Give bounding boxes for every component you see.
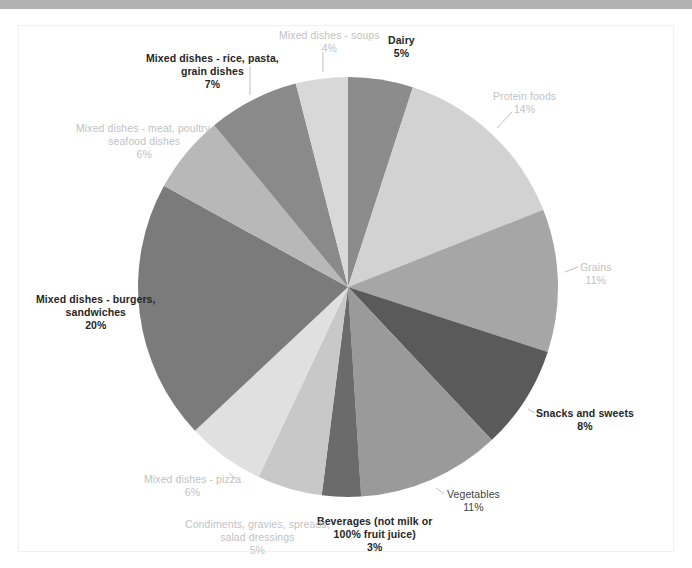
pie-slice-label-text: Dairy [388,34,415,47]
pie-slice-label-text: Mixed dishes - meat, poultry, [76,122,212,135]
pie-slice-label: Beverages (not milk or100% fruit juice)3… [317,515,432,554]
pie-slice-label-text: Mixed dishes - soups [279,29,380,42]
pie-slice-label: Protein foods14% [493,90,556,116]
pie-slice-label: Grains11% [580,261,612,287]
pie-slice-label-text: Beverages (not milk or [317,515,432,528]
pie-slice-percent: 11% [447,501,500,514]
pie-slice-label: Mixed dishes - meat, poultry,seafood dis… [76,122,212,161]
pie-slice-label-text: grain dishes [146,65,279,78]
pie-slice-percent: 7% [146,78,279,91]
pie-slice-label-text: Mixed dishes - burgers, [36,293,156,306]
pie-slice-label: Mixed dishes - soups4% [279,29,380,55]
document-page [0,9,692,568]
pie-slice-percent: 5% [388,47,415,60]
pie-slice-label-text: seafood dishes [76,135,212,148]
pie-slice-label: Vegetables11% [447,488,500,514]
pie-slice-label-text: salad dressings [185,531,330,544]
pie-slice-label: Mixed dishes - pizza6% [144,473,241,499]
pie-slice-label: Snacks and sweets8% [536,407,634,433]
pie-slice-percent: 4% [279,42,380,55]
pie-slice-percent: 14% [493,103,556,116]
pie-slice-label-text: Protein foods [493,90,556,103]
pie-slice-label: Mixed dishes - burgers,sandwiches20% [36,293,156,332]
pie-slice-label-text: Vegetables [447,488,500,501]
pie-slice-label: Dairy5% [388,34,415,60]
pie-slice-percent: 8% [536,420,634,433]
window-top-bar [0,0,692,9]
pie-slice-percent: 6% [76,148,212,161]
chart-frame [18,25,674,552]
pie-slice-percent: 5% [185,544,330,557]
pie-slice-label-text: 100% fruit juice) [317,528,432,541]
pie-slice-percent: 11% [580,274,612,287]
pie-slice-label-text: Grains [580,261,612,274]
pie-slice-percent: 6% [144,486,241,499]
pie-slice-label-text: Mixed dishes - pizza [144,473,241,486]
pie-slice-label-text: Snacks and sweets [536,407,634,420]
pie-slice-label: Mixed dishes - rice, pasta,grain dishes7… [146,52,279,91]
pie-slice-percent: 3% [317,541,432,554]
pie-slice-label-text: Mixed dishes - rice, pasta, [146,52,279,65]
pie-slice-label: Condiments, gravies, spreads,salad dress… [185,518,330,557]
pie-slice-label-text: Condiments, gravies, spreads, [185,518,330,531]
pie-slice-label-text: sandwiches [36,306,156,319]
pie-slice-percent: 20% [36,319,156,332]
